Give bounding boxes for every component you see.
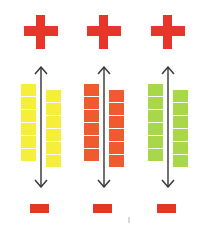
left-block-stack: [21, 84, 36, 161]
block: [173, 116, 188, 128]
block: [46, 155, 61, 167]
block: [173, 129, 188, 141]
block: [148, 84, 163, 96]
minus-icon: [157, 204, 176, 213]
block: [109, 155, 124, 167]
left-block-stack: [148, 84, 163, 161]
block: [148, 110, 163, 122]
block: [46, 103, 61, 115]
block: [173, 142, 188, 154]
minus-icon: [93, 204, 112, 213]
block: [21, 110, 36, 122]
block: [148, 136, 163, 148]
block: [148, 123, 163, 135]
stray-mark: [128, 217, 130, 223]
minus-icon: [30, 204, 49, 213]
plus-icon: [151, 15, 185, 49]
block: [109, 103, 124, 115]
block: [109, 90, 124, 102]
block: [46, 142, 61, 154]
right-block-stack: [173, 90, 188, 167]
plus-icon: [24, 15, 58, 49]
right-block-stack: [109, 90, 124, 167]
plus-icon: [87, 15, 121, 49]
block: [148, 149, 163, 161]
block: [21, 84, 36, 96]
block: [173, 155, 188, 167]
block: [109, 129, 124, 141]
block: [84, 123, 99, 135]
block: [148, 97, 163, 109]
block: [46, 129, 61, 141]
block: [84, 110, 99, 122]
block: [21, 149, 36, 161]
block: [21, 136, 36, 148]
block: [84, 136, 99, 148]
block: [46, 90, 61, 102]
block: [173, 103, 188, 115]
block: [46, 116, 61, 128]
block: [109, 142, 124, 154]
block: [109, 116, 124, 128]
block: [84, 149, 99, 161]
left-block-stack: [84, 84, 99, 161]
block: [84, 84, 99, 96]
block: [84, 97, 99, 109]
block: [173, 90, 188, 102]
right-block-stack: [46, 90, 61, 167]
block: [21, 97, 36, 109]
block: [21, 123, 36, 135]
